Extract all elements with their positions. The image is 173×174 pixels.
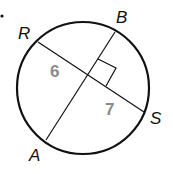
point-label-b: B — [116, 8, 127, 27]
point-label-a: A — [28, 146, 40, 165]
point-label-s: S — [150, 109, 162, 128]
point-label-r: R — [18, 24, 30, 43]
circle — [17, 22, 149, 154]
bullet-dot — [0, 14, 3, 17]
circle-chord-diagram: R B S A 6 7 — [0, 0, 173, 174]
segment-length-6: 6 — [50, 62, 59, 81]
right-angle-marker — [98, 59, 116, 86]
segment-length-7: 7 — [105, 100, 114, 119]
